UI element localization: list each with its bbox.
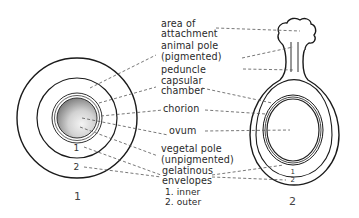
label-animal-pole-2: (pigmented) — [161, 51, 222, 62]
ring-number-1: 1 — [74, 143, 80, 153]
figure-2-egg: 1 2 2 — [250, 18, 339, 208]
figure-1-egg: 1 2 1 — [17, 58, 137, 203]
label-chorion: chorion — [163, 103, 200, 114]
label-ovum: ovum — [169, 125, 196, 136]
label-animal-pole: animal pole — [161, 40, 218, 51]
label-area-of-attachment-2: attachment — [161, 28, 218, 39]
labels: area of attachment animal pole (pigmente… — [161, 18, 234, 207]
figure-caption-2: 2 — [289, 195, 296, 208]
ring-number-2-fig2: 2 — [291, 176, 295, 184]
label-capsular-chamber-2: chamber — [161, 85, 204, 96]
egg-diagram: 1 2 1 1 2 2 — [0, 0, 359, 218]
label-outer: 2. outer — [165, 197, 201, 207]
ovum — [57, 98, 97, 138]
label-vegetal-pole: vegetal pole — [161, 143, 222, 154]
ring-number-2: 2 — [74, 162, 80, 172]
label-gelatinous-envelopes-2: envelopes — [162, 175, 212, 186]
label-inner: 1. inner — [165, 187, 201, 197]
figure-caption-1: 1 — [74, 190, 81, 203]
label-vegetal-pole-2: (unpigmented) — [161, 154, 234, 165]
ring-number-1-fig2: 1 — [291, 168, 295, 176]
label-peduncle: peduncle — [161, 64, 206, 75]
